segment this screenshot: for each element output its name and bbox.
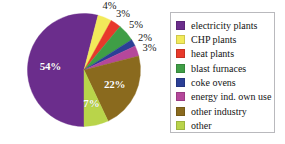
legend-item[interactable]: energy ind. own use [176, 90, 274, 104]
legend-item[interactable]: blast furnaces [176, 61, 274, 75]
legend-color-swatch [176, 21, 185, 30]
pie-chart-figure: 54%4%3%5%2%3%22%7% electricity plantsCHP… [0, 0, 285, 144]
legend-item[interactable]: other industry [176, 104, 274, 118]
legend-item[interactable]: other [176, 119, 274, 133]
legend-item-label: other [191, 120, 212, 131]
legend-color-swatch [176, 107, 185, 116]
legend-item[interactable]: coke ovens [176, 76, 274, 90]
legend-color-swatch [176, 92, 185, 101]
legend-color-swatch [176, 78, 185, 87]
pie-slice-value-label: 5% [129, 19, 143, 30]
legend-color-swatch [176, 121, 185, 130]
legend-item-label: blast furnaces [191, 63, 246, 74]
legend-item-label: coke ovens [191, 77, 236, 88]
pie-chart-svg [0, 0, 170, 144]
legend-item-label: other industry [191, 106, 247, 117]
pie-slice-value-label: 22% [104, 78, 125, 90]
legend-item-label: CHP plants [191, 34, 236, 45]
legend-item-label: electricity plants [191, 20, 257, 31]
legend-item[interactable]: CHP plants [176, 32, 274, 46]
legend-item-label: heat plants [191, 48, 234, 59]
chart-legend: electricity plantsCHP plantsheat plantsb… [170, 12, 275, 133]
pie-slice-value-label: 4% [103, 0, 117, 11]
pie-slice-value-label: 54% [40, 60, 61, 72]
pie-chart-plot: 54%4%3%5%2%3%22%7% [0, 0, 170, 144]
legend-color-swatch [176, 35, 185, 44]
legend-item-label: energy ind. own use [191, 91, 271, 102]
legend-item[interactable]: heat plants [176, 47, 274, 61]
legend-color-swatch [176, 49, 185, 58]
pie-slice-value-label: 3% [116, 7, 130, 18]
legend-color-swatch [176, 64, 185, 73]
legend-item[interactable]: electricity plants [176, 18, 274, 32]
pie-slice-value-label: 3% [142, 41, 156, 52]
pie-slice-value-label: 7% [83, 97, 99, 109]
